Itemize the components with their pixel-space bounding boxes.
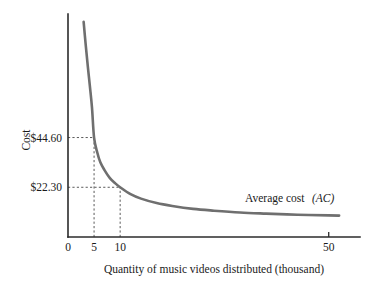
chart-canvas: 051050 $44.60$22.30 Cost Quantity of mus… <box>0 0 377 284</box>
y-value-label-2230: $22.30 <box>30 181 62 193</box>
x-tick-label-10: 10 <box>114 241 126 253</box>
y-axis-title: Cost <box>20 129 32 151</box>
curve-annotation: Average cost (AC) <box>245 192 335 205</box>
y-value-label-4460: $44.60 <box>30 132 62 144</box>
average-cost-chart: 051050 $44.60$22.30 Cost Quantity of mus… <box>0 0 377 284</box>
x-tick-label-50: 50 <box>323 241 335 253</box>
curve-annotation-symbol: (AC) <box>312 192 335 205</box>
x-tick-label-5: 5 <box>91 241 97 253</box>
x-tick-label-0: 0 <box>65 241 71 253</box>
x-axis-title: Quantity of music videos distributed (th… <box>104 263 324 276</box>
curve-annotation-text: Average cost <box>245 192 305 205</box>
